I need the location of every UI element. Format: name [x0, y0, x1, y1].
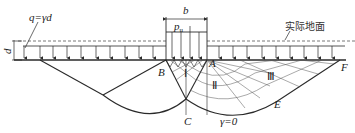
ground-leader: [285, 31, 290, 40]
point-b-label: B: [158, 66, 165, 78]
footing-zigzag: [166, 60, 207, 67]
surcharge-arrows: [24, 46, 332, 58]
point-a-label: A: [208, 57, 216, 69]
depth-label: d: [1, 48, 13, 54]
surcharge-leader: [25, 22, 38, 48]
point-f-label: F: [340, 61, 348, 73]
zone-1-label: Ⅰ: [184, 67, 187, 79]
gamma-zero-label: γ=0: [220, 115, 238, 127]
bearing-capacity-diagram: q=γd d b pu 实际地面 B A C E F Ⅰ Ⅱ Ⅲ γ=0: [0, 0, 355, 133]
depth-dimension: [12, 40, 22, 60]
ground-label: 实际地面: [285, 20, 325, 32]
surcharge-label: q=γd: [29, 11, 52, 23]
width-label: b: [183, 4, 189, 16]
point-c-label: C: [184, 115, 192, 127]
pressure-label: pu: [173, 20, 184, 34]
point-e-label: E: [273, 98, 281, 110]
zone-2-label: Ⅱ: [212, 79, 217, 91]
zone-3-label: Ⅲ: [267, 70, 275, 82]
